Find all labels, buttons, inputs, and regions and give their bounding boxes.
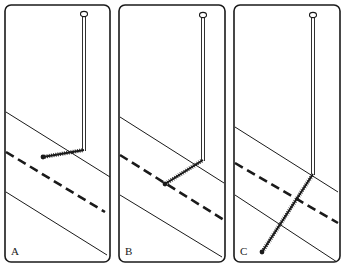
- panel-frame: [234, 5, 340, 262]
- panel-b: [119, 5, 225, 262]
- thread-tick: [75, 149, 76, 153]
- figure-canvas: [0, 0, 345, 267]
- band-dashed-line: [6, 152, 105, 212]
- thread-tick: [51, 154, 52, 158]
- thread-tip-icon: [163, 182, 168, 187]
- thread-tick: [67, 151, 68, 155]
- pin-head-icon: [310, 12, 317, 17]
- thread-tick: [64, 151, 65, 155]
- band-dashed-line: [120, 155, 224, 220]
- band-bottom-line: [6, 192, 107, 255]
- panel-label-c: C: [240, 245, 247, 257]
- thread-tick: [60, 152, 61, 156]
- band-bottom-line: [235, 195, 337, 262]
- panel-label-b: B: [125, 245, 132, 257]
- panel-a: [5, 5, 110, 262]
- thread-tip-icon: [260, 250, 265, 255]
- thread-tick: [80, 149, 81, 153]
- thread-tick: [56, 153, 57, 157]
- panel-content: [235, 12, 338, 262]
- thread-tick: [49, 154, 50, 158]
- thread-tick: [77, 149, 78, 153]
- band-top-line: [120, 117, 224, 183]
- panel-c: [234, 5, 340, 262]
- pin-head-icon: [200, 12, 207, 17]
- thread-tick: [73, 150, 74, 154]
- panel-frame: [119, 5, 225, 262]
- thread-tick: [71, 150, 72, 154]
- pin-head-icon: [81, 11, 88, 16]
- thread-tick: [58, 152, 59, 156]
- panel-label-a: A: [11, 245, 19, 257]
- panel-content: [120, 12, 224, 257]
- panel-frame: [5, 5, 110, 262]
- thread-tick: [62, 152, 63, 156]
- panel-content: [6, 11, 110, 255]
- band-top-line: [235, 127, 338, 192]
- band-top-line: [6, 112, 110, 177]
- thread-tick: [53, 153, 54, 157]
- thread-tip-icon: [41, 155, 46, 160]
- thread-tick: [47, 154, 48, 158]
- band-bottom-line: [120, 195, 222, 257]
